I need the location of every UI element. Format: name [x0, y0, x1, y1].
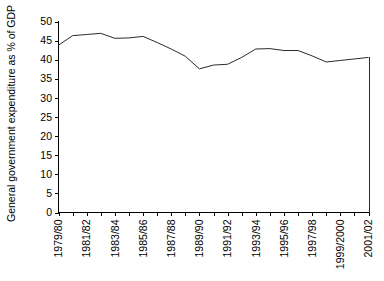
y-tick-label: 10 [40, 168, 52, 180]
y-tick-label: 30 [40, 92, 52, 104]
y-tick-label: 35 [40, 72, 52, 84]
y-tick-label: 15 [40, 149, 52, 161]
y-tick-label: 40 [40, 53, 52, 65]
y-axis-tick-marks [55, 23, 59, 214]
chart-figure: General government expenditure as % of G… [0, 0, 384, 281]
x-tick-label: 1999/2000 [334, 219, 346, 269]
x-tick-label: 1993/94 [250, 219, 262, 257]
data-series-line [59, 33, 369, 69]
x-tick-label: 1991/92 [221, 219, 233, 257]
y-axis-tick-labels: 05101520253035404550 [40, 15, 52, 218]
x-tick-label: 1983/84 [109, 219, 121, 257]
y-tick-label: 5 [46, 187, 52, 199]
x-axis-tick-labels: 1979/801981/821983/841985/861987/881989/… [52, 219, 374, 269]
y-tick-label: 45 [40, 34, 52, 46]
x-tick-label: 1979/80 [52, 219, 64, 257]
x-tick-label: 1981/82 [80, 219, 92, 257]
y-tick-label: 20 [40, 130, 52, 142]
x-tick-label: 1995/96 [278, 219, 290, 257]
y-tick-label: 0 [46, 206, 52, 218]
x-tick-label: 1989/90 [193, 219, 205, 257]
x-tick-label: 1987/88 [165, 219, 177, 257]
y-tick-label: 25 [40, 111, 52, 123]
x-tick-label: 2001/02 [362, 219, 374, 257]
y-tick-label: 50 [40, 15, 52, 27]
x-tick-label: 1985/86 [137, 219, 149, 257]
x-axis-tick-marks [60, 213, 370, 217]
line-chart-plot: 05101520253035404550 1979/801981/821983/… [0, 0, 384, 281]
x-tick-label: 1997/98 [306, 219, 318, 257]
